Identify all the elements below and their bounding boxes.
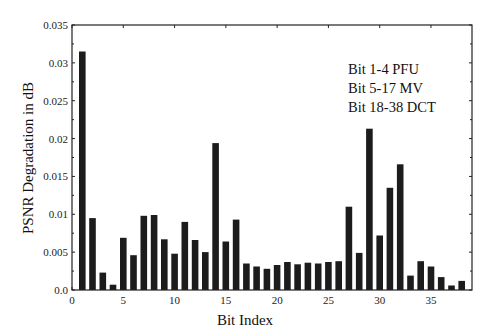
x-tick-label: 15 [220,294,232,306]
bar-bit-21 [284,262,291,290]
y-tick-label: 0.005 [43,246,68,258]
bar-bit-34 [417,261,424,290]
x-tick-label: 35 [425,294,437,306]
bar-chart: 05101520253035 0.00.0050.010.0150.020.02… [0,0,493,332]
bar-bit-13 [202,252,209,290]
bar-bit-25 [325,262,332,290]
bar-bit-33 [407,276,414,290]
bar-bit-19 [264,269,271,290]
bar-bit-5 [120,238,127,290]
x-tick-label: 5 [121,294,127,306]
bar-bit-23 [305,263,312,290]
x-tick-label: 20 [272,294,284,306]
bar-bit-28 [356,253,363,290]
y-tick-label: 0.015 [43,170,68,182]
bar-bit-18 [253,267,260,291]
bar-bit-20 [274,265,281,290]
bar-bit-3 [100,273,107,290]
annotation-mv: Bit 5-17 MV [348,80,423,96]
bar-bit-15 [223,242,230,291]
bar-bit-29 [366,129,373,290]
bar-bit-36 [438,277,445,290]
bar-bit-4 [110,285,117,290]
bar-bit-30 [376,236,383,291]
bar-bit-27 [346,207,353,290]
y-axis-title: PSNR Degradation in dB [20,82,36,234]
annotation-dct: Bit 18-38 DCT [348,99,436,115]
y-tick-label: 0.0 [54,284,68,296]
bar-bit-6 [130,255,137,290]
bar-bit-11 [182,222,189,290]
bar-bit-12 [192,240,199,290]
bar-bit-17 [243,264,250,291]
bar-bit-24 [315,264,322,291]
bar-bit-22 [294,264,301,290]
bar-bit-14 [212,143,219,290]
y-tick-label: 0.02 [49,133,68,145]
x-tick-label: 10 [169,294,181,306]
bar-bit-9 [161,239,168,290]
y-tick-label: 0.01 [49,208,68,220]
bar-bit-2 [89,218,96,290]
bar-bit-10 [171,254,178,290]
x-tick-label: 30 [374,294,386,306]
bar-bit-7 [141,216,148,290]
x-tick-label: 0 [69,294,75,306]
y-tick-label: 0.035 [43,19,68,31]
bar-bit-1 [79,52,86,291]
annotation-pfu: Bit 1-4 PFU [348,61,419,77]
bar-bit-37 [448,286,455,291]
bar-bit-26 [335,261,342,290]
bar-bit-31 [387,188,394,290]
y-tick-label: 0.025 [43,95,68,107]
bar-bit-16 [233,220,240,290]
bar-bit-38 [458,281,465,290]
bar-bit-32 [397,164,404,290]
x-tick-label: 25 [323,294,335,306]
y-tick-label: 0.03 [49,57,69,69]
x-axis-title: Bit Index [217,312,274,328]
bar-bit-8 [151,215,158,290]
bar-bit-35 [428,267,435,291]
